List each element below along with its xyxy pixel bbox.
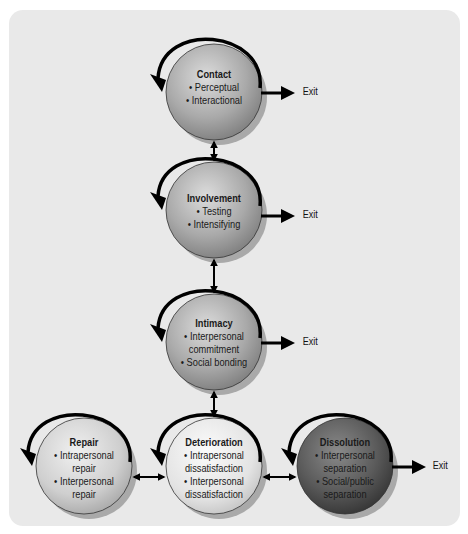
node-item: Interpersonal <box>172 475 256 488</box>
node-item: Interpersonal <box>303 449 387 462</box>
node-title: Contact <box>172 68 256 81</box>
node-item: Testing <box>172 205 256 218</box>
loop-arrowheads <box>20 74 297 466</box>
node-repair: Repair Intrapersonal repair Interpersona… <box>42 436 126 501</box>
node-title: Intimacy <box>172 317 256 330</box>
node-title: Repair <box>42 436 126 449</box>
node-item-continued: separation <box>303 462 387 475</box>
node-item: Interactional <box>172 94 256 107</box>
node-item-continued: repair <box>42 462 126 475</box>
node-title: Deterioration <box>172 436 256 449</box>
node-intimacy: Intimacy Interpersonal commitment Social… <box>172 317 256 369</box>
node-item-continued: commitment <box>172 343 256 356</box>
node-item: Intensifying <box>172 218 256 231</box>
node-title: Dissolution <box>303 436 387 449</box>
node-item: Social/public <box>303 475 387 488</box>
exit-label-intimacy: Exit <box>303 336 318 347</box>
node-item-continued: dissatisfaction <box>172 462 256 475</box>
node-item: Perceptual <box>172 81 256 94</box>
exit-label-contact: Exit <box>303 86 318 97</box>
exit-label-dissolution: Exit <box>433 460 448 471</box>
node-title: Involvement <box>172 192 256 205</box>
node-deterioration: Deterioration Intrapersonal dissatisfact… <box>172 436 256 501</box>
node-item: Intrapersonal <box>172 449 256 462</box>
node-dissolution: Dissolution Interpersonal separation Soc… <box>303 436 387 501</box>
node-item-continued: separation <box>303 488 387 501</box>
node-involvement: Involvement Testing Intensifying <box>172 192 256 231</box>
node-contact: Contact Perceptual Interactional <box>172 68 256 107</box>
node-item: Intrapersonal <box>42 449 126 462</box>
exit-label-involvement: Exit <box>303 209 318 220</box>
node-item: Interpersonal <box>172 330 256 343</box>
node-item-continued: repair <box>42 488 126 501</box>
node-item: Interpersonal <box>42 475 126 488</box>
node-item-continued: dissatisfaction <box>172 488 256 501</box>
node-item: Social bonding <box>172 356 256 369</box>
